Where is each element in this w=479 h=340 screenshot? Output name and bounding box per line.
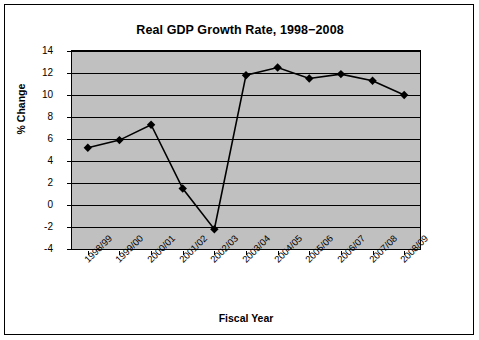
- y-axis-tick-label: 0: [23, 199, 53, 210]
- y-axis-tickmark: [67, 117, 71, 118]
- data-point-marker: [305, 74, 313, 82]
- chart-title: Real GDP Growth Rate, 1998−2008: [5, 23, 475, 37]
- y-axis-tick-label: 4: [23, 155, 53, 166]
- x-axis-tickmark: [341, 251, 342, 255]
- y-axis-tick-label: 10: [23, 89, 53, 100]
- y-axis-tick-label: -4: [23, 243, 53, 254]
- series-line: [88, 68, 404, 230]
- y-axis-tickmark: [67, 95, 71, 96]
- data-point-marker: [115, 136, 123, 144]
- y-axis-tickmark: [67, 205, 71, 206]
- data-point-marker: [147, 121, 155, 129]
- data-point-marker: [273, 63, 281, 71]
- x-axis-title: Fiscal Year: [71, 312, 421, 324]
- x-axis-tickmark: [309, 251, 310, 255]
- x-axis-tickmark: [246, 251, 247, 255]
- y-axis-tick-label: -2: [23, 221, 53, 232]
- x-axis-tickmark: [278, 251, 279, 255]
- x-axis-tickmark: [151, 251, 152, 255]
- y-axis-tickmark: [67, 51, 71, 52]
- x-axis-tickmark: [183, 251, 184, 255]
- y-axis-tickmark: [67, 249, 71, 250]
- x-axis-tickmark: [214, 251, 215, 255]
- y-axis-tickmark: [67, 183, 71, 184]
- data-point-marker: [368, 77, 376, 85]
- y-axis-tick-label: 6: [23, 133, 53, 144]
- plot-area: [71, 50, 421, 250]
- y-axis-tickmark: [67, 73, 71, 74]
- y-axis-tickmark: [67, 139, 71, 140]
- x-axis-tickmark: [404, 251, 405, 255]
- y-axis-tick-label: 8: [23, 111, 53, 122]
- data-point-marker: [84, 144, 92, 152]
- y-axis-tick-label: 12: [23, 67, 53, 78]
- x-axis-tickmark: [119, 251, 120, 255]
- data-series-line: [72, 51, 422, 251]
- y-axis-tick-label: 14: [23, 45, 53, 56]
- chart-container: Real GDP Growth Rate, 1998−2008 % Change…: [4, 4, 474, 335]
- data-point-marker: [337, 70, 345, 78]
- y-axis-tickmark: [67, 227, 71, 228]
- y-axis-tickmark: [67, 161, 71, 162]
- x-axis-tickmark: [373, 251, 374, 255]
- y-axis-tick-label: 2: [23, 177, 53, 188]
- data-point-marker: [400, 91, 408, 99]
- data-point-marker: [242, 71, 250, 79]
- x-axis-tickmark: [88, 251, 89, 255]
